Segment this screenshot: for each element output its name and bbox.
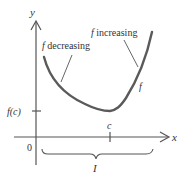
origin-label: 0 — [27, 142, 32, 153]
fc-label: f(c) — [7, 106, 22, 118]
curve-label: f — [139, 81, 143, 92]
f-decreasing-leader — [61, 55, 72, 82]
f-increasing-leader — [124, 40, 138, 67]
function-diagram: y x 0 f(c) c f decreasing f increasing f… — [0, 0, 185, 180]
interval-brace — [42, 149, 153, 159]
f-decreasing-text: decreasing — [45, 40, 90, 51]
interval-label: I — [92, 162, 98, 174]
c-label: c — [107, 120, 112, 131]
f-decreasing-label: f decreasing — [42, 40, 90, 51]
y-axis-label: y — [29, 6, 35, 18]
x-axis-label: x — [171, 131, 177, 143]
f-increasing-label: f increasing — [91, 27, 137, 38]
f-increasing-text: increasing — [94, 27, 138, 38]
